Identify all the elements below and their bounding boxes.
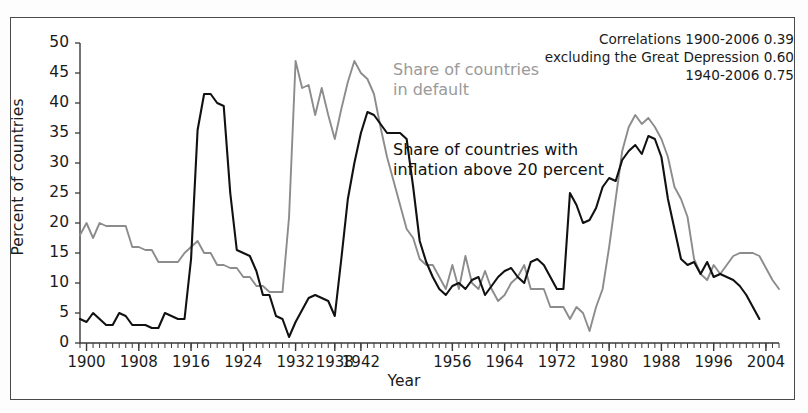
y-axis-label: Percent of countries xyxy=(9,47,27,307)
y-tick-label: 25 xyxy=(23,183,69,201)
y-tick-label: 50 xyxy=(23,33,69,51)
y-tick-label: 0 xyxy=(23,333,69,351)
y-tick-label: 10 xyxy=(23,273,69,291)
x-tick-label: 1980 xyxy=(579,353,639,371)
x-tick-label: 1996 xyxy=(684,353,744,371)
x-tick-label: 1988 xyxy=(631,353,691,371)
x-tick-label: 2004 xyxy=(736,353,796,371)
x-tick-label: 1900 xyxy=(57,353,117,371)
chart-figure: Percent of countries Year 05101520253035… xyxy=(0,0,808,413)
series-label-default: Share of countries in default xyxy=(393,60,539,101)
y-tick-label: 40 xyxy=(23,93,69,111)
x-tick-label: 1908 xyxy=(109,353,169,371)
series-label-inflation: Share of countries with inflation above … xyxy=(393,140,604,181)
x-tick-label: 1942 xyxy=(331,353,391,371)
series-line xyxy=(80,61,779,331)
x-tick-label: 1964 xyxy=(475,353,535,371)
x-tick-label: 1956 xyxy=(422,353,482,371)
y-tick-label: 20 xyxy=(23,213,69,231)
y-tick-label: 15 xyxy=(23,243,69,261)
x-tick-label: 1972 xyxy=(527,353,587,371)
y-tick-label: 30 xyxy=(23,153,69,171)
y-tick-label: 45 xyxy=(23,63,69,81)
x-axis-label: Year xyxy=(0,372,808,390)
y-tick-label: 5 xyxy=(23,303,69,321)
y-tick-label: 35 xyxy=(23,123,69,141)
x-tick-label: 1916 xyxy=(161,353,221,371)
correlations-annotation: Correlations 1900-2006 0.39 excluding th… xyxy=(545,30,794,84)
x-tick-label: 1924 xyxy=(213,353,273,371)
